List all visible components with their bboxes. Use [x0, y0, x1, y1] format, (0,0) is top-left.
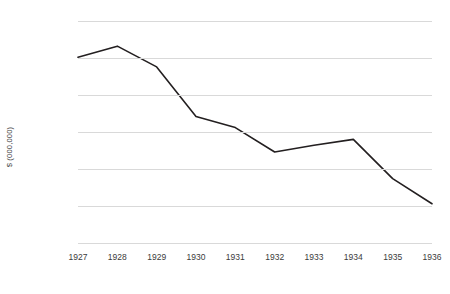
x-tick-label-1930: 1930: [187, 252, 206, 262]
gridline-y-40: [78, 95, 432, 96]
gridline-y-35: [78, 132, 432, 133]
series-line-path: [78, 46, 432, 204]
x-tick-label-1934: 1934: [344, 252, 363, 262]
gridline-y-20: [78, 243, 432, 244]
line-chart: $ (000,000) 50454035302520 1927192819291…: [0, 0, 450, 294]
plot-area: [78, 21, 432, 243]
gridline-y-25: [78, 206, 432, 207]
gridline-y-45: [78, 58, 432, 59]
x-tick-label-1933: 1933: [305, 252, 324, 262]
x-tick-label-1935: 1935: [383, 252, 402, 262]
x-tick-label-1927: 1927: [69, 252, 88, 262]
x-tick-label-1932: 1932: [265, 252, 284, 262]
gridline-y-30: [78, 169, 432, 170]
x-tick-label-1931: 1931: [226, 252, 245, 262]
x-tick-label-1928: 1928: [108, 252, 127, 262]
x-axis-tick-labels: 1927192819291930193119321933193419351936: [78, 252, 432, 268]
gridline-y-50: [78, 21, 432, 22]
x-tick-label-1936: 1936: [423, 252, 442, 262]
x-tick-label-1929: 1929: [147, 252, 166, 262]
